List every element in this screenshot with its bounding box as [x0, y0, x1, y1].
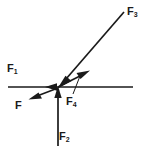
label-f2-base: F: [59, 130, 66, 142]
label-f4-subscript: 4: [73, 101, 77, 108]
label-f4: F4: [66, 96, 77, 107]
vector-f4: [58, 71, 90, 88]
label-f3-base: F: [127, 5, 134, 17]
label-f1-subscript: 1: [14, 68, 18, 75]
vector-f3: [58, 12, 125, 89]
label-f4-base: F: [66, 95, 73, 107]
label-f2: F2: [59, 131, 70, 142]
label-f3: F3: [127, 6, 138, 17]
force-diagram-canvas: [0, 0, 147, 157]
vector-f-arrowhead: [29, 93, 43, 100]
label-f3-subscript: 3: [134, 11, 138, 18]
label-f-base: F: [15, 99, 22, 111]
force-diagram: F1 F2 F3 F4 F: [0, 0, 147, 157]
label-f2-subscript: 2: [66, 136, 70, 143]
label-f: F: [15, 100, 22, 111]
vector-f4-arrowhead: [77, 71, 91, 80]
label-f1-base: F: [7, 62, 14, 74]
vector-f-shaft: [37, 88, 58, 96]
vector-f3-shaft: [66, 12, 124, 79]
vector-f: [29, 88, 59, 100]
vector-f1: [8, 83, 133, 91]
label-f1: F1: [7, 63, 18, 74]
